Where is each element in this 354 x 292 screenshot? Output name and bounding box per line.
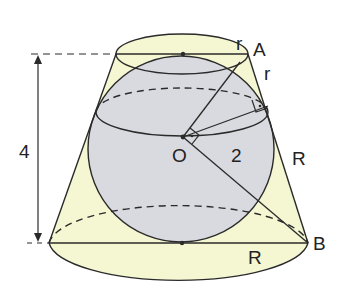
label-bottom-radius: R [248, 247, 262, 268]
right-angle-dot-tangent [259, 105, 262, 108]
center-point-o [181, 135, 186, 140]
bottom-center-point [180, 241, 184, 245]
label-height: 4 [19, 141, 30, 162]
height-arrow-down-icon [34, 233, 42, 242]
height-arrow-up-icon [34, 55, 42, 64]
label-slant-big-r: R [292, 148, 306, 169]
top-center-point [181, 52, 185, 56]
label-point-a: A [253, 39, 266, 60]
frustum-sphere-diagram: r A r O 2 R B R 4 [0, 0, 354, 292]
label-top-radius: r [236, 33, 243, 54]
angle-dot-center [191, 135, 194, 138]
label-point-b: B [313, 233, 326, 254]
label-sphere-radius: 2 [231, 145, 242, 166]
diagram-canvas: r A r O 2 R B R 4 [0, 0, 354, 292]
label-center-o: O [172, 145, 187, 166]
label-slant-r: r [264, 63, 271, 84]
